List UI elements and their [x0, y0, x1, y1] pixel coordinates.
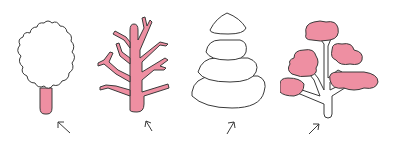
tree-1-rounded-crown: Rounded crown tree [0, 0, 100, 146]
tree-4-cloud-foliage: Tree with cloud-like foliage clumps [280, 0, 394, 146]
conifer-tree-icon [192, 13, 265, 108]
arrow-up-left-icon [145, 121, 152, 131]
arrow-up-left-icon [58, 122, 70, 133]
tree-2-bare-branching: Bare branching tree [90, 0, 200, 146]
tree-trunk-icon [40, 88, 52, 114]
arrow-up-right-icon [309, 124, 319, 134]
tree-crown-icon [18, 21, 75, 88]
arrow-up-right-icon [227, 122, 235, 134]
tree-3-conifer: Conical conifer tree [190, 0, 290, 146]
bare-tree-icon [98, 17, 169, 112]
